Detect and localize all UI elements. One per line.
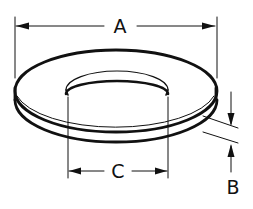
arrow-a-right-icon [202,23,215,30]
arrow-b-up-icon [228,144,235,157]
label-a: A [114,15,127,37]
washer-diagram: A C B [0,0,253,209]
arrow-c-right-icon [155,168,167,175]
dimension-b-ext-bottom [203,132,238,143]
arrow-a-left-icon [16,23,29,30]
dimension-b [203,92,238,172]
arrow-b-down-icon [228,113,235,126]
label-c: C [111,160,124,182]
hole-front-edge [66,81,168,94]
washer-body [15,50,217,142]
washer-top-outer-edge [15,50,217,132]
arrow-c-left-icon [69,168,81,175]
label-b: B [226,176,239,198]
